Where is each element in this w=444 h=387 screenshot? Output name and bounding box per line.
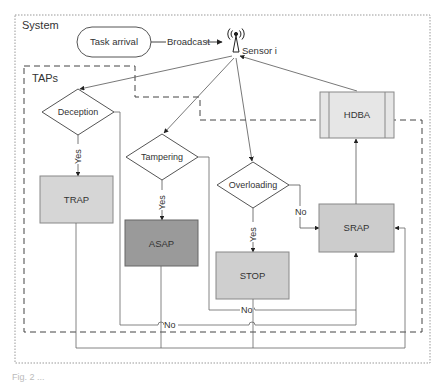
deception-yes-label: Yes — [73, 149, 83, 164]
trap-label: TRAP — [64, 194, 89, 205]
asap-label: ASAP — [149, 238, 174, 249]
deception-label: Deception — [58, 107, 99, 117]
srap-label: SRAP — [344, 222, 370, 233]
stop-label: STOP — [240, 270, 266, 281]
deception-no-label: No — [164, 320, 176, 330]
tampering-label: Tampering — [141, 152, 183, 162]
taps-label: TAPs — [32, 72, 59, 84]
tampering-no-label: No — [241, 305, 253, 315]
broadcast-label: Broadcast — [167, 36, 210, 47]
figure-caption: Fig. 2 ... — [12, 372, 45, 382]
sensor-label: Sensor i — [242, 45, 277, 56]
tampering-yes-label: Yes — [157, 195, 167, 210]
task-arrival-label: Task arrival — [90, 36, 138, 47]
overloading-no-label: No — [295, 207, 307, 217]
overloading-yes-label: Yes — [248, 227, 258, 242]
overloading-label: Overloading — [229, 180, 278, 190]
system-label: System — [22, 19, 59, 31]
hdba-label: HDBA — [344, 109, 371, 120]
tap-flow-diagram: System TAPs Task arrival Broadcast Senso… — [0, 0, 444, 387]
